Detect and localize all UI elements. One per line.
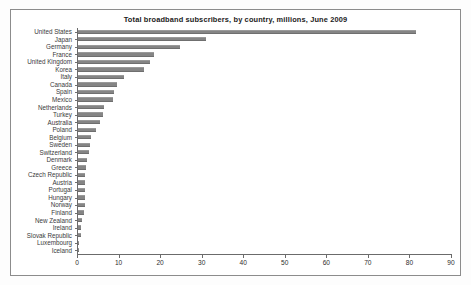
y-axis-label: Poland xyxy=(52,126,72,133)
y-axis-label: United Kingdom xyxy=(27,58,72,65)
y-axis-label: Japan xyxy=(55,36,72,43)
bar xyxy=(78,67,144,71)
x-axis-line xyxy=(77,254,452,255)
bar xyxy=(78,233,81,237)
y-axis-label: Mexico xyxy=(52,96,72,103)
bar xyxy=(78,45,180,49)
x-axis-tick xyxy=(409,255,410,258)
bar xyxy=(78,97,113,101)
y-axis-label: Spain xyxy=(56,88,72,95)
x-axis-tick-label: 80 xyxy=(406,259,413,266)
y-axis-label: Portugal xyxy=(49,186,72,193)
y-axis-label: Germany xyxy=(46,43,72,50)
bar xyxy=(78,75,124,79)
x-axis-tick-label: 40 xyxy=(240,259,247,266)
x-axis-tick xyxy=(368,255,369,258)
x-axis-tick-label: 60 xyxy=(323,259,330,266)
y-axis-label: Australia xyxy=(48,119,73,126)
bars-container xyxy=(77,28,451,254)
y-axis-label: Austria xyxy=(52,179,72,186)
bar xyxy=(78,60,150,64)
bar xyxy=(78,225,81,229)
y-axis-label: Luxembourg xyxy=(37,239,72,246)
y-axis-label: Switzerland xyxy=(39,149,72,156)
y-axis-label: Hungary xyxy=(48,194,72,201)
bar xyxy=(78,37,206,41)
x-axis-tick xyxy=(160,255,161,258)
bar xyxy=(78,195,85,199)
x-axis-tick-label: 20 xyxy=(156,259,163,266)
bar xyxy=(78,218,82,222)
chart-figure: Total broadband subscribers, by country,… xyxy=(0,0,471,285)
bar xyxy=(78,143,90,147)
bar xyxy=(78,90,114,94)
bar xyxy=(78,210,84,214)
bar xyxy=(78,135,91,139)
y-axis-label: Korea xyxy=(55,66,72,73)
bar xyxy=(78,173,85,177)
y-axis-label: Italy xyxy=(60,73,72,80)
bar xyxy=(78,241,79,245)
bar xyxy=(78,120,100,124)
bar xyxy=(78,158,87,162)
y-axis-label: New Zealand xyxy=(35,217,72,224)
bar xyxy=(78,165,86,169)
bar xyxy=(78,203,85,207)
x-axis-tick-label: 10 xyxy=(115,259,122,266)
y-axis-label: Ireland xyxy=(53,224,72,231)
y-axis-label: Denmark xyxy=(46,156,72,163)
bar xyxy=(78,188,85,192)
x-axis-tick xyxy=(77,255,78,258)
y-axis-label: Slovak Republic xyxy=(27,232,72,239)
y-axis-label: Belgium xyxy=(49,134,72,141)
x-axis-tick xyxy=(285,255,286,258)
chart-title: Total broadband subscribers, by country,… xyxy=(11,15,460,24)
x-axis-tick-label: 50 xyxy=(281,259,288,266)
x-axis-tick-label: 0 xyxy=(75,259,79,266)
x-axis-tick xyxy=(326,255,327,258)
y-axis-label: Finland xyxy=(51,209,72,216)
y-axis-label: Iceland xyxy=(52,247,72,254)
x-axis-tick-label: 90 xyxy=(447,259,454,266)
bar xyxy=(78,180,85,184)
x-axis-tick xyxy=(451,255,452,258)
y-axis-label: Canada xyxy=(50,81,72,88)
y-axis-category-labels: United StatesJapanGermanyFranceUnited Ki… xyxy=(11,28,75,254)
chart-frame: Total broadband subscribers, by country,… xyxy=(10,9,461,276)
y-axis-label: France xyxy=(52,51,72,58)
x-axis-tick xyxy=(202,255,203,258)
x-axis-tick xyxy=(119,255,120,258)
bar xyxy=(78,82,117,86)
bar xyxy=(78,52,154,56)
x-axis-tick-label: 70 xyxy=(364,259,371,266)
y-axis-label: Turkey xyxy=(53,111,72,118)
bar xyxy=(78,30,416,34)
y-axis-label: Norway xyxy=(51,201,72,208)
x-axis-tick xyxy=(243,255,244,258)
y-axis-label: Greece xyxy=(51,164,72,171)
bar xyxy=(78,112,103,116)
y-axis-label: Netherlands xyxy=(38,104,72,111)
bar xyxy=(78,128,96,132)
y-axis-label: United States xyxy=(34,28,72,35)
x-axis-tick-label: 30 xyxy=(198,259,205,266)
y-axis-label: Sweden xyxy=(49,141,72,148)
bar xyxy=(78,150,89,154)
y-axis-label: Czech Republic xyxy=(28,171,72,178)
bar xyxy=(78,248,79,252)
bar xyxy=(78,105,104,109)
